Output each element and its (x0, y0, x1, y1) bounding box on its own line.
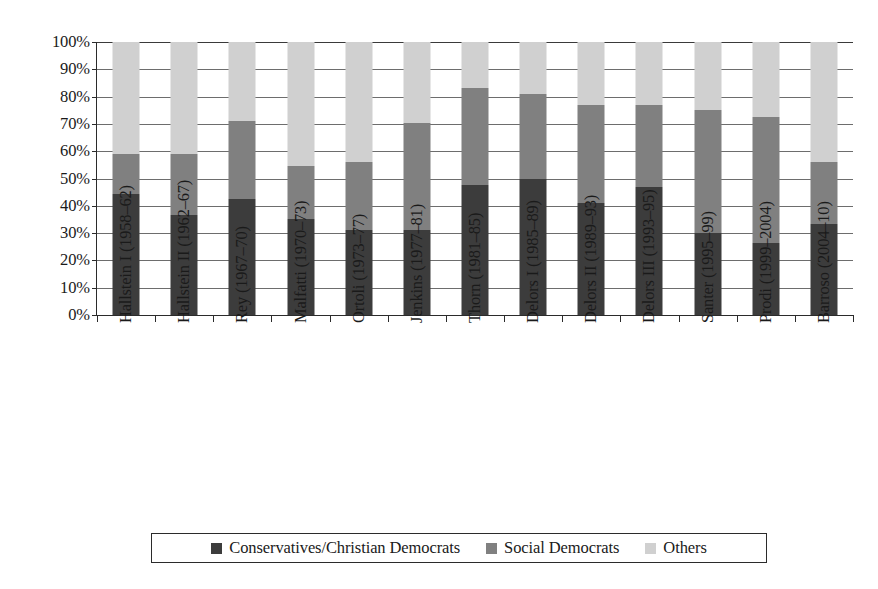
bar-segment (810, 42, 837, 162)
bar-segment (520, 94, 547, 179)
y-tick-label: 40% (60, 195, 90, 215)
legend-item[interactable]: Social Democrats (486, 540, 619, 557)
x-label-wrap: Jenkins (1977–81) (388, 315, 446, 515)
y-tick-label: 50% (60, 168, 90, 188)
y-tick-label: 80% (60, 86, 90, 106)
bar-segment (345, 42, 372, 162)
bar-segment (229, 42, 256, 121)
bar-segment (461, 42, 488, 88)
bar-segment (461, 88, 488, 185)
bar-segment (229, 121, 256, 199)
bar-segment (694, 42, 721, 110)
y-tick-label: 100% (52, 32, 90, 52)
legend-item[interactable]: Others (645, 540, 706, 557)
y-tick-label: 90% (60, 59, 90, 79)
x-tick-label: Ortoli (1973–77) (349, 214, 369, 323)
bar-segment (752, 42, 779, 117)
legend-label: Others (663, 540, 706, 557)
bar-segment (113, 42, 140, 154)
x-tick-label: Rey (1967–70) (232, 226, 252, 323)
x-label-wrap: Hallstein II (1962–67) (155, 315, 213, 515)
y-tick-label: 60% (60, 141, 90, 161)
x-label-wrap: Delors II (1989–93) (562, 315, 620, 515)
plot-area: 0%10%20%30%40%50%60%70%80%90%100% Hallst… (96, 42, 853, 316)
bar-segment (520, 42, 547, 94)
x-label-wrap: Ortoli (1973–77) (330, 315, 388, 515)
bar-segment (403, 42, 430, 123)
x-tick-label: Malfatti (1970–73) (291, 201, 311, 323)
legend-swatch-icon (645, 543, 656, 554)
y-tick-label: 20% (60, 250, 90, 270)
legend-item[interactable]: Conservatives/Christian Democrats (211, 540, 460, 557)
x-label-wrap: Delors III (1993–95) (620, 315, 678, 515)
y-tick-label: 0% (68, 305, 90, 325)
y-tick-label: 70% (60, 113, 90, 133)
x-tick-label: Delors I (1985–89) (523, 200, 543, 323)
x-label-wrap: Hallstein I (1958–62) (97, 315, 155, 515)
bar-segment (636, 42, 663, 105)
x-label-wrap: Rey (1967–70) (213, 315, 271, 515)
x-tick-label: Delors II (1989–93) (581, 195, 601, 323)
x-tick-label: Delors III (1993–95) (639, 190, 659, 323)
bar-segment (578, 42, 605, 105)
stacked-bar-chart: 0%10%20%30%40%50%60%70%80%90%100% Hallst… (0, 0, 878, 589)
legend-label: Conservatives/Christian Democrats (229, 540, 460, 557)
legend-label: Social Democrats (504, 540, 619, 557)
x-tick-label: Santer (1995–99) (698, 211, 718, 323)
y-tick-label: 30% (60, 223, 90, 243)
x-tick-label: Jenkins (1977–81) (407, 204, 427, 323)
bar-segment (578, 105, 605, 203)
x-tick-mark (853, 315, 854, 322)
y-tick-label: 10% (60, 277, 90, 297)
legend-swatch-icon (211, 543, 222, 554)
x-label-wrap: Thorn (1981–85) (446, 315, 504, 515)
legend-swatch-icon (486, 543, 497, 554)
x-tick-label: Hallstein I (1958–62) (116, 185, 136, 323)
x-tick-label: Prodi (1999–2004) (756, 201, 776, 323)
x-tick-label: Thorn (1981–85) (465, 213, 485, 323)
x-label-wrap: Delors I (1985–89) (504, 315, 562, 515)
x-label-wrap: Prodi (1999–2004) (737, 315, 795, 515)
bar-segment (636, 105, 663, 187)
x-tick-label: Hallstein II (1962–67) (174, 180, 194, 323)
x-label-wrap: Barroso (2004–10) (795, 315, 853, 515)
bar-segment (171, 42, 198, 154)
bar-segment (287, 42, 314, 166)
chart-legend: Conservatives/Christian DemocratsSocial … (151, 533, 767, 563)
x-label-wrap: Malfatti (1970–73) (271, 315, 329, 515)
x-label-wrap: Santer (1995–99) (679, 315, 737, 515)
x-tick-label: Barroso (2004–10) (814, 201, 834, 323)
